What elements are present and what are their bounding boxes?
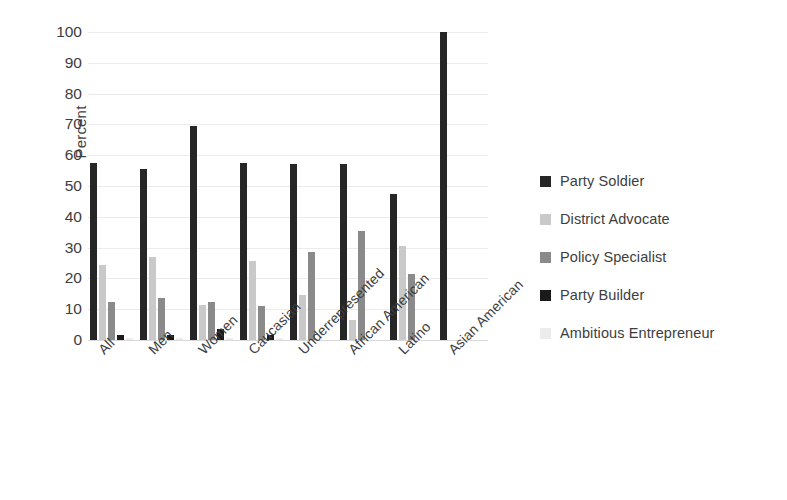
- legend-swatch-icon: [540, 290, 551, 301]
- bar-group: [190, 32, 233, 340]
- bar[interactable]: [440, 32, 447, 340]
- y-axis-tick-label: 80: [36, 86, 82, 102]
- legend-item-label: District Advocate: [560, 211, 670, 227]
- bar[interactable]: [99, 265, 106, 340]
- bar[interactable]: [190, 126, 197, 340]
- legend-item-label: Party Builder: [560, 287, 644, 303]
- legend-item[interactable]: District Advocate: [540, 200, 780, 238]
- bar[interactable]: [299, 295, 306, 340]
- legend-swatch-icon: [540, 252, 551, 263]
- legend-swatch-icon: [540, 328, 551, 339]
- y-axis-tick-label: 50: [36, 178, 82, 194]
- legend-item[interactable]: Party Soldier: [540, 162, 780, 200]
- chart-legend: Party SoldierDistrict AdvocatePolicy Spe…: [540, 162, 780, 352]
- legend-item[interactable]: Party Builder: [540, 276, 780, 314]
- bar[interactable]: [149, 257, 156, 340]
- legend-item-label: Ambitious Entrepreneur: [560, 325, 715, 341]
- bar-chart: Percent 1009080706050403020100 AllMenWom…: [0, 0, 787, 500]
- y-axis-tick-label: 70: [36, 116, 82, 132]
- bar[interactable]: [249, 261, 256, 340]
- x-axis-tick-labels: AllMenWomenCaucasianUnderrepresentedAfri…: [88, 340, 508, 470]
- y-axis-tick-label: 60: [36, 147, 82, 163]
- y-axis-tick-label: 30: [36, 240, 82, 256]
- bar-group: [140, 32, 183, 340]
- y-axis-tick-label: 100: [36, 24, 82, 40]
- y-axis-tick-label: 90: [36, 55, 82, 71]
- y-axis-tick-label: 0: [36, 332, 82, 348]
- bar-group: [290, 32, 333, 340]
- y-axis-tick-label: 20: [36, 270, 82, 286]
- bar-group: [90, 32, 133, 340]
- bar[interactable]: [90, 163, 97, 340]
- legend-item[interactable]: Ambitious Entrepreneur: [540, 314, 780, 352]
- plot-area: [88, 32, 488, 340]
- bar[interactable]: [140, 169, 147, 340]
- legend-item-label: Party Soldier: [560, 173, 644, 189]
- bar-group: [240, 32, 283, 340]
- legend-swatch-icon: [540, 176, 551, 187]
- bar[interactable]: [108, 302, 115, 341]
- legend-item-label: Policy Specialist: [560, 249, 666, 265]
- legend-swatch-icon: [540, 214, 551, 225]
- y-axis-tick-label: 40: [36, 209, 82, 225]
- bar-group: [440, 32, 483, 340]
- y-axis-tick-labels: 1009080706050403020100: [30, 32, 82, 340]
- legend-item[interactable]: Policy Specialist: [540, 238, 780, 276]
- bar[interactable]: [240, 163, 247, 340]
- y-axis-tick-label: 10: [36, 301, 82, 317]
